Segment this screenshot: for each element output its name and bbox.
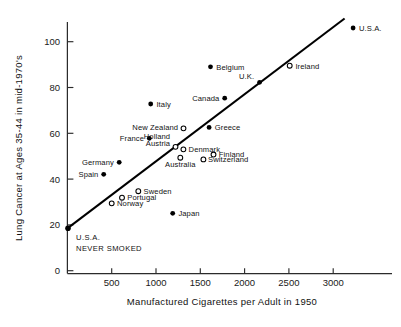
point-marker[interactable]: [65, 226, 71, 232]
point-marker[interactable]: [208, 64, 213, 69]
x-ticklabel-2500: 2500: [278, 277, 299, 288]
x-ticklabel-500: 500: [104, 277, 120, 288]
point-marker[interactable]: [287, 63, 292, 68]
scatter-plot-figure: 100 80 60 40 20 0 500 1000 1500 2000 250…: [0, 0, 401, 327]
point-label: Italy: [156, 100, 171, 109]
point-marker[interactable]: [173, 144, 178, 149]
axes: [67, 22, 392, 274]
point-marker[interactable]: [170, 211, 175, 216]
point-label: Ireland: [295, 62, 319, 71]
annotation-line-1: U.S.A.: [76, 233, 100, 242]
point-marker[interactable]: [181, 147, 186, 152]
point-label: Greece: [215, 123, 241, 132]
point-marker[interactable]: [181, 126, 186, 131]
trend-line: [67, 19, 344, 229]
point-label: France: [120, 134, 144, 143]
y-ticklabel-80: 80: [49, 82, 60, 93]
point-marker[interactable]: [201, 157, 206, 162]
point-label: U.S.A.: [359, 24, 382, 33]
x-ticklabel-3000: 3000: [323, 277, 344, 288]
point-marker[interactable]: [109, 201, 114, 206]
chart-svg: 100 80 60 40 20 0 500 1000 1500 2000 250…: [0, 0, 401, 327]
y-ticklabel-20: 20: [49, 219, 60, 230]
x-ticklabel-1000: 1000: [145, 277, 166, 288]
point-label: Australia: [165, 160, 196, 169]
y-axis-ticks: 100 80 60 40 20 0: [44, 36, 73, 276]
point-label: Japan: [178, 209, 199, 218]
y-axis-title: Lung Cancer at Ages 35-44 in mid-1970's: [13, 55, 24, 241]
point-marker[interactable]: [257, 80, 262, 85]
point-marker[interactable]: [351, 26, 356, 31]
point-label: Belgium: [216, 63, 244, 72]
point-label: Holland: [144, 132, 170, 141]
point-label: Switzerland: [208, 155, 248, 164]
x-ticklabel-2000: 2000: [234, 277, 255, 288]
point-marker[interactable]: [222, 96, 227, 101]
point-label: U.K.: [239, 72, 254, 81]
point-label: New Zealand: [132, 123, 178, 132]
x-axis-ticks: 500 1000 1500 2000 2500 3000: [104, 268, 344, 288]
y-ticklabel-100: 100: [44, 36, 60, 47]
point-marker[interactable]: [101, 172, 106, 177]
point-marker[interactable]: [148, 102, 153, 107]
x-axis-title: Manufactured Cigarettes per Adult in 195…: [127, 296, 317, 307]
y-ticklabel-40: 40: [49, 174, 60, 185]
x-ticklabel-1500: 1500: [190, 277, 211, 288]
point-label: Norway: [117, 199, 143, 208]
data-points: U.S.A. Ireland Belgium U.K. Canada Italy…: [65, 24, 381, 253]
y-ticklabel-60: 60: [49, 128, 60, 139]
point-label: Spain: [78, 170, 98, 179]
y-ticklabel-0: 0: [55, 265, 60, 276]
point-label: Canada: [192, 94, 220, 103]
point-label: Germany: [82, 158, 114, 167]
point-marker[interactable]: [117, 160, 122, 165]
point-marker[interactable]: [207, 125, 212, 130]
annotation-line-2: NEVER SMOKED: [76, 244, 142, 253]
